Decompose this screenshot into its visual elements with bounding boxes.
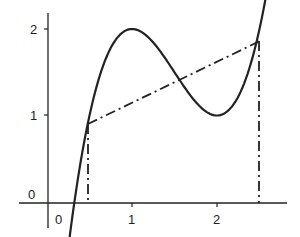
plot-area: 2 1 0 0 1 2 <box>0 0 300 237</box>
y-tick-label: 2 <box>30 22 37 37</box>
function-curve <box>66 0 268 237</box>
y-tick-label: 1 <box>30 108 37 123</box>
x-tick-label: 1 <box>128 212 135 227</box>
chart: 2 1 0 0 1 2 <box>0 0 300 237</box>
y-tick-label: 0 <box>28 187 35 202</box>
x-tick-label: 2 <box>213 212 220 227</box>
x-tick-label: 0 <box>55 212 62 227</box>
secant-line <box>88 41 260 124</box>
